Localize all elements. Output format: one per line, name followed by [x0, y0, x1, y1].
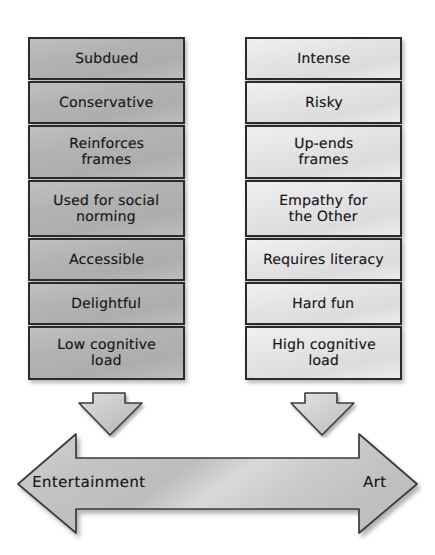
left-item-4: Accessible [28, 238, 185, 281]
right-item-0: Intense [245, 37, 402, 80]
left-column-entertainment: Subdued Conservative Reinforcesframes Us… [28, 37, 185, 381]
right-item-5-label: Hard fun [288, 296, 359, 312]
left-item-2-label: Reinforcesframes [65, 136, 149, 167]
right-item-2-label: Up-endsframes [290, 136, 358, 167]
right-item-5: Hard fun [245, 282, 402, 325]
left-item-5: Delightful [28, 282, 185, 325]
right-item-1: Risky [245, 81, 402, 124]
right-item-6-label: High cognitiveload [267, 337, 379, 368]
right-item-4: Requires literacy [245, 238, 402, 281]
right-item-0-label: Intense [293, 51, 355, 67]
right-item-4-label: Requires literacy [259, 252, 388, 268]
right-item-3-label: Empathy forthe Other [275, 193, 372, 224]
spectrum-right-label: Art [363, 473, 387, 491]
entertainment-art-spectrum-diagram: Subdued Conservative Reinforcesframes Us… [0, 0, 435, 555]
left-item-1-label: Conservative [55, 95, 158, 111]
spectrum-left-label: Entertainment [32, 473, 146, 491]
left-item-0-label: Subdued [71, 51, 143, 67]
right-item-1-label: Risky [300, 95, 346, 111]
left-item-3: Used for socialnorming [28, 180, 185, 237]
left-item-1: Conservative [28, 81, 185, 124]
left-item-3-label: Used for socialnorming [49, 193, 164, 224]
right-column-art: Intense Risky Up-endsframes Empathy fort… [245, 37, 402, 381]
left-item-4-label: Accessible [65, 252, 149, 268]
right-item-2: Up-endsframes [245, 125, 402, 179]
right-item-6: High cognitiveload [245, 326, 402, 380]
right-item-3: Empathy forthe Other [245, 180, 402, 237]
left-item-6-label: Low cognitiveload [53, 337, 160, 368]
left-item-2: Reinforcesframes [28, 125, 185, 179]
left-item-5-label: Delightful [67, 296, 145, 312]
left-item-6: Low cognitiveload [28, 326, 185, 380]
left-item-0: Subdued [28, 37, 185, 80]
